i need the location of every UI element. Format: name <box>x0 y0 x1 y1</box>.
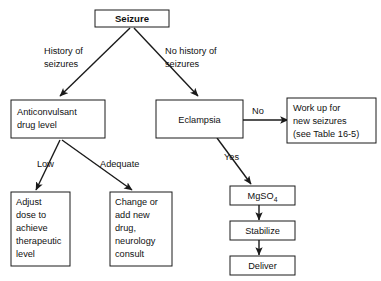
node-deliver: Deliver <box>230 256 295 275</box>
node-mgso4-label: MgSO4 <box>248 191 278 203</box>
node-workup: Work up for new seizures (see Table 16-5… <box>287 98 376 143</box>
node-adjust-dose-line-5: level <box>16 249 35 259</box>
node-change-drug-line-2: add new <box>115 210 150 220</box>
node-seizure-label: Seizure <box>115 13 149 24</box>
node-change-drug: Change or add new drug, neurology consul… <box>110 192 172 266</box>
node-anticonvulsant: Anticonvulsant drug level <box>11 100 105 138</box>
node-stabilize: Stabilize <box>230 221 295 240</box>
edge-label-no-history-line-1: No history of <box>165 46 217 56</box>
edge-label-low: Low <box>37 159 54 169</box>
edge-label-history-line-1: History of <box>44 46 83 56</box>
edge-label-no: No <box>252 106 264 116</box>
node-adjust-dose-line-1: Adjust <box>16 197 42 207</box>
node-eclampsia-label: Eclampsia <box>178 115 221 125</box>
node-change-drug-line-1: Change or <box>115 197 158 207</box>
node-adjust-dose-line-4: therapeutic <box>16 236 62 246</box>
node-workup-line-1: Work up for <box>293 103 340 113</box>
node-adjust-dose-line-2: dose to <box>16 210 46 220</box>
node-adjust-dose: Adjust dose to achieve therapeutic level <box>11 192 70 266</box>
node-seizure: Seizure <box>95 10 169 27</box>
node-mgso4-base: MgSO <box>248 191 274 201</box>
node-anticonvulsant-line-1: Anticonvulsant <box>17 107 77 117</box>
node-adjust-dose-line-3: achieve <box>16 223 48 233</box>
node-eclampsia: Eclampsia <box>156 100 243 138</box>
edge-label-adequate: Adequate <box>100 159 139 169</box>
node-mgso4-subscript: 4 <box>274 196 278 203</box>
seizure-flowchart: Seizure Anticonvulsant drug level Eclamp… <box>0 0 381 281</box>
edge-label-no-history-line-2: seizures <box>165 59 200 69</box>
edge-label-yes: Yes <box>224 152 239 162</box>
node-workup-line-3: (see Table 16-5) <box>293 129 359 139</box>
node-anticonvulsant-line-2: drug level <box>17 120 57 130</box>
node-change-drug-line-3: drug, <box>115 223 136 233</box>
node-stabilize-label: Stabilize <box>245 226 280 236</box>
node-deliver-label: Deliver <box>248 261 277 271</box>
node-mgso4: MgSO4 <box>230 186 295 205</box>
node-change-drug-line-4: neurology <box>115 236 156 246</box>
node-workup-line-2: new seizures <box>293 116 347 126</box>
node-change-drug-line-5: consult <box>115 249 145 259</box>
edge-label-history-line-2: seizures <box>44 59 79 69</box>
flowchart-canvas: Seizure Anticonvulsant drug level Eclamp… <box>0 0 381 281</box>
